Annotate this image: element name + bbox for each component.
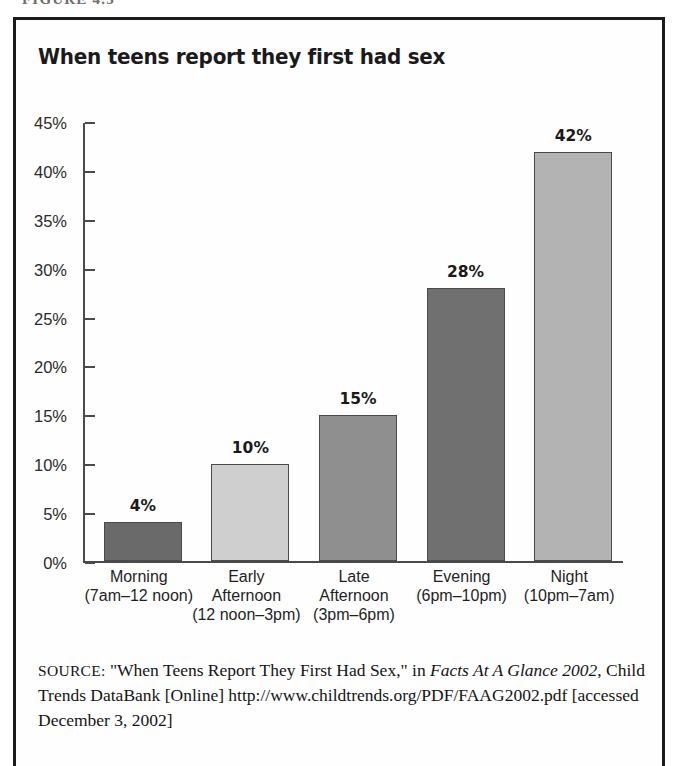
- bar-value-label: 15%: [319, 390, 397, 408]
- category-label-line: (3pm–6pm): [289, 605, 419, 624]
- y-axis-tick: [85, 562, 95, 564]
- category-label-line: Night: [504, 567, 634, 586]
- y-axis-tick-label: 5%: [43, 505, 67, 524]
- bar-group: 28%: [427, 123, 505, 561]
- bar-group: 42%: [534, 123, 612, 561]
- y-axis-tick-label: 15%: [34, 407, 67, 426]
- bar-value-label: 4%: [104, 497, 182, 515]
- bar-value-label: 28%: [427, 263, 505, 281]
- source-title-italic: Facts At A Glance 2002: [430, 660, 597, 680]
- y-axis-tick-label: 35%: [34, 211, 67, 230]
- y-axis-tick-label: 0%: [43, 554, 67, 573]
- source-note: SOURCE: "When Teens Report They First Ha…: [38, 658, 650, 733]
- y-axis-tick-label: 40%: [34, 162, 67, 181]
- bar-series: 4%10%15%28%42%: [85, 123, 623, 561]
- bar-group: 10%: [211, 123, 289, 561]
- x-axis-line: [83, 561, 623, 563]
- bar-value-label: 42%: [534, 127, 612, 145]
- bar: [104, 522, 182, 561]
- y-axis-tick-label: 10%: [34, 456, 67, 475]
- bar: [427, 288, 505, 561]
- bar: [534, 152, 612, 561]
- y-axis-tick-label: 20%: [34, 358, 67, 377]
- chart-plot-area: 45%40%35%30%25%20%15%10%5%0% 4%10%15%28%…: [83, 123, 623, 563]
- bar-group: 15%: [319, 123, 397, 561]
- bar-value-label: 10%: [211, 439, 289, 457]
- y-axis-tick-label: 25%: [34, 309, 67, 328]
- figure-number-header: FIGURE 4.5: [22, 0, 262, 5]
- y-axis-tick-label: 30%: [34, 260, 67, 279]
- y-axis-tick-label: 45%: [34, 114, 67, 133]
- figure-inner: When teens report they first had sex 45%…: [16, 20, 662, 766]
- source-label: SOURCE:: [38, 662, 106, 679]
- figure-frame: When teens report they first had sex 45%…: [13, 17, 665, 766]
- x-axis-category-label: Night(10pm–7am): [504, 567, 634, 605]
- bar: [211, 464, 289, 561]
- source-text-part1: "When Teens Report They First Had Sex," …: [106, 660, 430, 680]
- category-label-line: (10pm–7am): [504, 586, 634, 605]
- bar: [319, 415, 397, 561]
- bar-group: 4%: [104, 123, 182, 561]
- page-title: When teens report they first had sex: [38, 44, 445, 69]
